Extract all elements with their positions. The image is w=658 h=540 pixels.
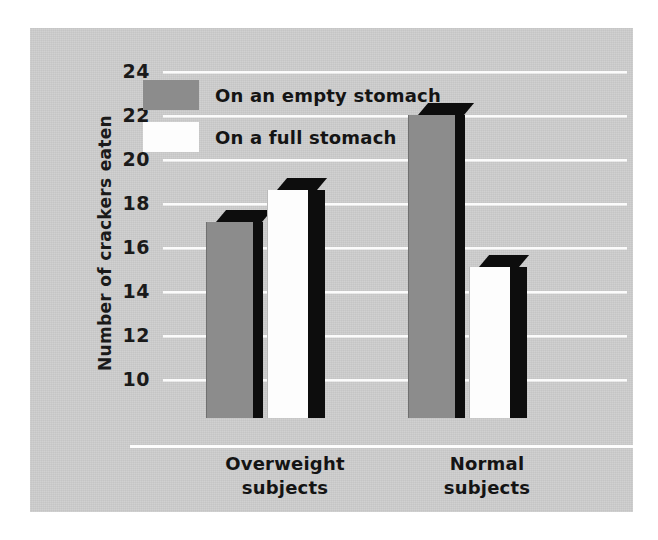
xcat-line-2: subjects (185, 476, 385, 500)
chart-figure: 24 22 20 18 16 14 12 10 Number of cracke… (0, 0, 658, 540)
bar-front-face (206, 222, 253, 418)
bar-normal-full-stomach (469, 255, 509, 418)
gridline-24 (163, 71, 627, 73)
bar-top-face (277, 178, 327, 190)
x-axis-baseline (130, 445, 633, 448)
xcat-line-1: Overweight (225, 453, 344, 474)
xcat-line-2: subjects (387, 476, 587, 500)
bar-side-face (454, 115, 465, 418)
bar-top-face (216, 210, 272, 222)
xcat-line-1: Normal (450, 453, 525, 474)
bar-side-face (307, 190, 325, 418)
legend-item-full-stomach: On a full stomach (143, 116, 473, 158)
y-axis-title: Number of crackers eaten (95, 98, 115, 388)
bar-overweight-full-stomach (267, 178, 307, 418)
xcat-label-overweight: Overweight subjects (185, 452, 385, 501)
bar-side-face (509, 267, 527, 418)
bar-front-face (469, 267, 510, 418)
xcat-label-normal: Normal subjects (387, 452, 587, 501)
gridline-18 (163, 203, 627, 205)
bar-overweight-empty-stomach (206, 210, 252, 418)
legend-label-empty-stomach: On an empty stomach (215, 85, 441, 106)
legend-item-empty-stomach: On an empty stomach (143, 74, 473, 116)
bar-front-face (267, 190, 308, 418)
chart-legend: On an empty stomach On a full stomach (143, 74, 473, 158)
legend-swatch-full-stomach (143, 122, 199, 152)
gridline-20 (163, 159, 627, 161)
bar-side-face (252, 222, 263, 418)
bar-front-face (408, 115, 455, 418)
legend-label-full-stomach: On a full stomach (215, 127, 397, 148)
bar-top-face (479, 255, 529, 267)
chart-panel: 24 22 20 18 16 14 12 10 Number of cracke… (30, 28, 633, 512)
legend-swatch-empty-stomach (143, 80, 199, 110)
